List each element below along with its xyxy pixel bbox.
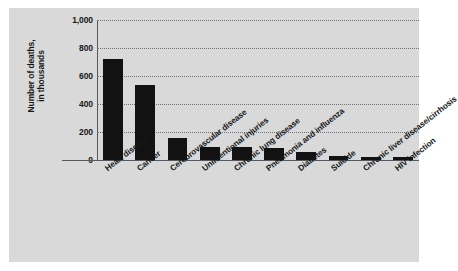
y-axis-tick-label: 200 — [61, 128, 93, 137]
bar[interactable] — [393, 157, 413, 160]
plot-area — [97, 20, 419, 160]
bar[interactable] — [296, 152, 316, 160]
bar[interactable] — [361, 157, 381, 161]
bar[interactable] — [103, 59, 123, 160]
gridline — [97, 76, 419, 77]
bar[interactable] — [200, 147, 220, 160]
x-axis-line — [62, 160, 419, 161]
chart-figure: Number of deaths, in thousands 020040060… — [9, 8, 419, 262]
y-axis-tick-label: 800 — [61, 44, 93, 53]
y-axis-tick-label: 1,000 — [61, 16, 93, 25]
y-axis-title-line1: Number of deaths, — [26, 16, 36, 136]
bar[interactable] — [135, 85, 155, 160]
y-axis-tick-labels: 02004006008001,000 — [57, 8, 93, 262]
bar[interactable] — [232, 147, 252, 160]
bar[interactable] — [168, 138, 188, 160]
y-axis-title-line2: in thousands — [36, 16, 46, 136]
y-axis-title: Number of deaths, in thousands — [26, 16, 46, 136]
bar[interactable] — [329, 156, 349, 160]
bar[interactable] — [264, 148, 284, 160]
gridline — [97, 20, 419, 21]
gridline — [97, 48, 419, 49]
y-axis-tick-label: 600 — [61, 72, 93, 81]
y-axis-tick-label: 400 — [61, 100, 93, 109]
